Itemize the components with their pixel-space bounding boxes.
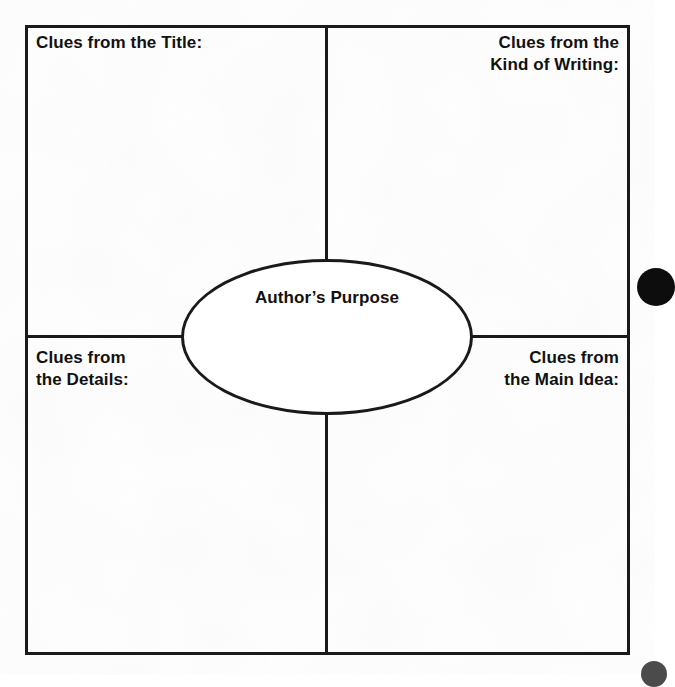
quadrant-label-line: Clues from the — [490, 32, 619, 54]
quadrant-label-line: Clues from — [504, 347, 619, 369]
quadrant-label-line: Clues from — [36, 347, 129, 369]
quadrant-label-line: the Details: — [36, 369, 129, 391]
quadrant-label-line: Clues from the Title: — [36, 32, 202, 54]
quadrant-label-clues-from-the-main-idea: Clues from the Main Idea: — [504, 347, 619, 392]
edge-dot-right-icon — [637, 268, 675, 306]
center-ellipse-label: Author’s Purpose — [184, 288, 470, 308]
quadrant-label-clues-from-the-title: Clues from the Title: — [36, 32, 202, 54]
quadrant-label-line: Kind of Writing: — [490, 54, 619, 76]
quadrant-label-clues-from-the-details: Clues from the Details: — [36, 347, 129, 392]
edge-dot-corner-icon — [641, 661, 667, 687]
center-ellipse: Author’s Purpose — [181, 259, 473, 415]
quadrant-label-clues-from-the-kind-of-writing: Clues from the Kind of Writing: — [490, 32, 619, 77]
quadrant-label-line: the Main Idea: — [504, 369, 619, 391]
